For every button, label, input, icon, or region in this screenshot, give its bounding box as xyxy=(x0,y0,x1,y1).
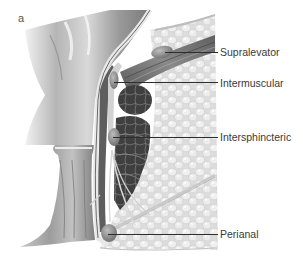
supralevator-leader-line xyxy=(165,52,218,53)
anatomical-figure: a Supralevator Intermuscular Intersphinc… xyxy=(0,0,303,263)
supralevator-label: Supralevator xyxy=(220,46,280,58)
intermuscular-leader-line xyxy=(114,82,218,83)
perianal-leader-line xyxy=(108,234,218,235)
panel-letter: a xyxy=(18,12,24,24)
intermuscular-abscess xyxy=(110,71,119,89)
perianal-label: Perianal xyxy=(220,228,259,240)
intersphincteric-leader-line xyxy=(113,137,218,138)
intermuscular-label: Intermuscular xyxy=(220,77,284,89)
intersphincteric-label: Intersphincteric xyxy=(220,131,291,143)
perianal-abscess xyxy=(101,224,117,242)
external-sphincter-deep xyxy=(118,85,152,115)
